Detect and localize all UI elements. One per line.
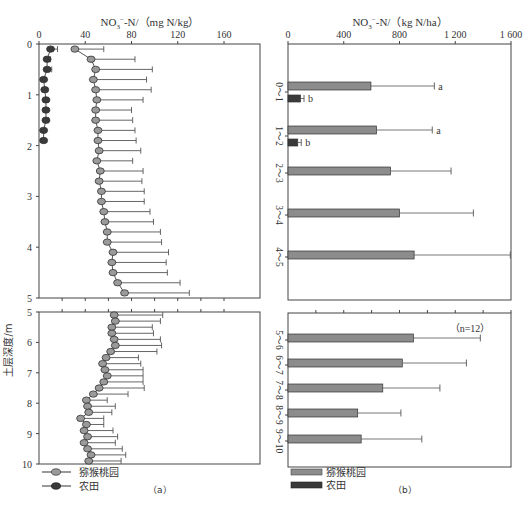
y-tick-label: 2 [27, 141, 32, 152]
bar-orchard [288, 167, 390, 175]
x-tick-label: 120 [170, 29, 185, 40]
data-point-marker [84, 403, 92, 409]
y-tick-label: 10 [22, 459, 32, 470]
category-label: 1～2 [274, 126, 284, 146]
y-axis-label: 土层深度/m [2, 323, 14, 376]
data-point-marker [80, 427, 88, 433]
data-point-marker [110, 336, 118, 342]
data-point-marker [92, 117, 100, 123]
data-point-marker [110, 312, 118, 318]
y-tick-label: 0 [27, 39, 32, 50]
data-point-marker [96, 168, 104, 174]
data-point-marker [89, 391, 97, 397]
data-point-marker [93, 97, 101, 103]
y-tick-label: 4 [27, 242, 32, 253]
figure-canvas: NO3−-N/（mg N/kg） NO3−-N/（kg N/ha） 040801… [0, 0, 532, 509]
data-point-marker [82, 397, 90, 403]
data-point-marker [101, 219, 109, 225]
data-point-marker [99, 360, 107, 366]
x-tick-label: 40 [80, 29, 90, 40]
data-point-marker [100, 208, 108, 214]
category-label: 8～9 [274, 405, 284, 425]
panel-a-caption: （a） [148, 485, 172, 495]
category-label: 3～4 [274, 205, 284, 225]
x-tick-label: 0 [286, 29, 291, 40]
data-point-marker [103, 229, 111, 235]
legend-label-farmland: 农田 [326, 479, 346, 491]
series-farmland [40, 46, 58, 144]
data-point-marker [40, 137, 48, 143]
data-point-marker [87, 56, 95, 62]
significance-letter: a [438, 81, 443, 92]
data-point-marker [94, 137, 102, 143]
series-orchard [71, 46, 189, 464]
panel-a-depth-profile-chart: 040801201600123455678910 [22, 29, 260, 470]
sample-size-annotation: （n=12） [450, 323, 491, 334]
data-point-marker [101, 367, 109, 373]
data-point-marker [92, 87, 100, 93]
bar-orchard [288, 126, 377, 134]
x-tick-label: 1 600 [500, 29, 523, 40]
data-point-marker [40, 127, 48, 133]
significance-letter: a [436, 125, 441, 136]
legend-item-orchard-bar: 猕猴桃园 [291, 466, 366, 478]
data-point-marker [85, 409, 93, 415]
data-point-marker [94, 127, 102, 133]
data-point-marker [42, 97, 50, 103]
data-point-marker [92, 107, 100, 113]
bar-orchard [288, 435, 361, 443]
x-tick-label: 400 [336, 29, 351, 40]
panel-b-bar-chart: 04008001 2001 6000～1ab1～2ab2～33～44～55～66… [274, 29, 522, 467]
data-point-marker [109, 269, 117, 275]
bar-farmland [288, 95, 301, 102]
orchard-swatch-icon [291, 469, 322, 475]
legend-item-farmland-bar: 农田 [291, 479, 346, 491]
data-point-marker [77, 415, 85, 421]
data-point-marker [43, 56, 51, 62]
data-point-marker [111, 342, 119, 348]
significance-letter: b [305, 137, 310, 148]
category-label: 6～7 [274, 355, 284, 375]
data-point-marker [42, 117, 50, 123]
x-tick-label: 0 [37, 29, 42, 40]
panel-b-caption: （b） [393, 485, 417, 495]
bar-orchard [288, 209, 400, 217]
data-point-marker [40, 76, 48, 82]
data-point-marker [107, 348, 115, 354]
data-point-marker [95, 178, 103, 184]
bar-orchard [288, 251, 414, 259]
x-tick-label: 160 [217, 29, 232, 40]
orchard-marker-icon [52, 469, 61, 475]
data-point-marker [109, 249, 117, 255]
y-tick-label: 5 [27, 293, 32, 304]
y-tick-label: 5 [27, 307, 32, 318]
panel-a-top-plot-frame [39, 44, 260, 298]
y-tick-label: 3 [27, 191, 32, 202]
legend-item-farmland: 农田 [42, 480, 99, 492]
bar-orchard [288, 334, 413, 342]
data-point-marker [84, 446, 92, 452]
data-point-marker [97, 188, 105, 194]
data-point-marker [84, 433, 92, 439]
bar-farmland [288, 139, 298, 146]
data-point-marker [102, 354, 110, 360]
data-point-marker [47, 46, 55, 52]
data-point-marker [80, 440, 88, 446]
data-point-marker [108, 330, 116, 336]
data-point-marker [97, 198, 105, 204]
bar-orchard [288, 82, 371, 90]
data-point-marker [111, 318, 119, 324]
y-tick-label: 7 [27, 368, 32, 379]
data-point-marker [114, 280, 122, 286]
category-label: 2～3 [274, 163, 284, 183]
farmland-marker-icon [52, 483, 61, 489]
farmland-swatch-icon [291, 482, 322, 488]
x-tick-label: 1 200 [444, 29, 467, 40]
panel-b-legend: 猕猴桃园 农田 （b） [291, 466, 417, 495]
category-label: 5～6 [274, 330, 284, 350]
data-point-marker [85, 458, 93, 464]
data-point-marker [43, 66, 51, 72]
legend-label-farmland: 农田 [79, 480, 99, 492]
x-tick-label: 800 [392, 29, 407, 40]
data-point-marker [100, 379, 108, 385]
